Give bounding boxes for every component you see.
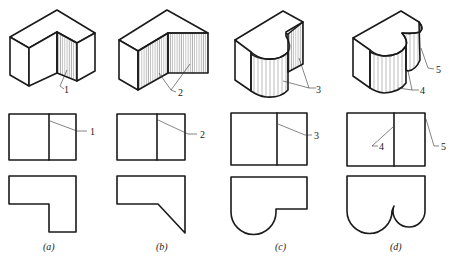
caption-c: (c) [275, 241, 287, 253]
front-view-outline [347, 113, 425, 166]
front-view-outline [231, 113, 307, 165]
callout-label-4: 4 [420, 85, 425, 96]
caption-b: (b) [156, 241, 168, 253]
leader-line-1 [50, 121, 87, 131]
top-view-a [9, 176, 76, 232]
front-view-outline [117, 114, 185, 160]
caption-d: (d) [390, 241, 402, 253]
panel-c: 3 3 (c) [231, 11, 321, 253]
leader-line-5 [421, 48, 434, 69]
callout-label-3: 3 [314, 130, 319, 141]
isometric-view-c: 3 [235, 11, 321, 97]
top-view-b [117, 176, 185, 233]
front-view-c: 3 [231, 113, 319, 165]
panel-a: 1 1 (a) [9, 10, 95, 253]
top-view-c [231, 177, 307, 235]
hatched-face-3-curved [251, 52, 288, 97]
leader-line-2 [158, 120, 197, 134]
callout-label-4: 4 [379, 141, 384, 152]
top-view-outline [117, 176, 185, 233]
callout-label-1: 1 [64, 84, 69, 95]
front-view-outline [9, 114, 76, 160]
callout-label-3: 3 [316, 84, 321, 95]
callout-label-1: 1 [90, 126, 95, 137]
orthographic-projection-figure: 1 1 (a) 2 2 [0, 0, 462, 259]
caption-a: (a) [43, 241, 55, 253]
leader-line-5 [426, 119, 439, 146]
front-view-a: 1 [9, 114, 95, 160]
panel-d: 4 5 4 5 (d) [347, 11, 446, 253]
front-view-b: 2 [117, 114, 205, 160]
isometric-view-b: 2 [119, 10, 208, 98]
callout-label-2: 2 [200, 129, 205, 140]
top-view-outline [231, 177, 307, 235]
callout-label-2: 2 [178, 87, 183, 98]
panel-b: 2 2 (b) [117, 10, 208, 253]
leader-line-4a [398, 88, 419, 90]
callout-label-5: 5 [436, 64, 441, 75]
top-view-outline [9, 176, 76, 232]
top-view-d [347, 176, 425, 234]
isometric-view-a: 1 [10, 10, 95, 95]
isometric-view-d: 4 5 [353, 11, 441, 96]
leader-line-3b [299, 58, 309, 88]
leader-line-4b [408, 71, 412, 90]
callout-label-5: 5 [441, 141, 446, 152]
front-view-d: 4 5 [347, 113, 446, 166]
top-view-outline [347, 176, 425, 234]
